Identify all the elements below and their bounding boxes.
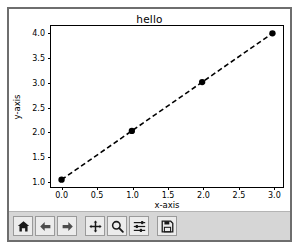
axes-frame: 0.00.51.01.52.02.53.0 1.01.52.02.53.03.5…: [50, 25, 284, 188]
data-point: [269, 30, 275, 36]
forward-button[interactable]: [57, 216, 77, 236]
toolbar-group-save: [156, 216, 178, 236]
zoom-button[interactable]: [107, 216, 127, 236]
forward-arrow-icon: [61, 220, 74, 233]
home-icon: [17, 220, 30, 233]
figure-canvas[interactable]: hello 0.00.51.01.52.02.53.0 1.01.52.02.5…: [9, 9, 290, 211]
x-tick-mark: [239, 187, 240, 190]
zoom-magnifier-icon: [111, 220, 124, 233]
y-tick-mark: [48, 108, 51, 109]
toolbar-group-navigation: [12, 216, 78, 236]
y-tick-label: 4.0: [32, 29, 45, 38]
back-button[interactable]: [35, 216, 55, 236]
figure-window: hello 0.00.51.01.52.02.53.0 1.01.52.02.5…: [7, 7, 292, 242]
subplot-sliders-icon: [133, 220, 146, 233]
y-tick-label: 1.5: [32, 152, 45, 161]
data-point: [199, 79, 205, 85]
configure-subplots-button[interactable]: [129, 216, 149, 236]
x-tick-label: 0.5: [91, 191, 104, 200]
y-tick-mark: [48, 58, 51, 59]
y-tick-mark: [48, 83, 51, 84]
y-tick-label: 3.0: [32, 78, 45, 87]
plot-svg: [51, 26, 283, 187]
x-tick-mark: [168, 187, 169, 190]
y-tick-mark: [48, 182, 51, 183]
save-floppy-icon: [161, 220, 174, 233]
y-tick-label: 2.5: [32, 103, 45, 112]
x-axis-label: x-axis: [50, 200, 284, 210]
y-axis-label: y-axis: [12, 95, 22, 120]
x-tick-label: 1.0: [126, 191, 139, 200]
x-tick-label: 2.5: [233, 191, 246, 200]
data-line-series-0: [62, 33, 273, 179]
data-point: [129, 128, 135, 134]
pan-move-icon: [89, 220, 102, 233]
navigation-toolbar: [9, 211, 290, 240]
x-tick-label: 1.5: [162, 191, 175, 200]
y-tick-label: 1.0: [32, 177, 45, 186]
plot-title: hello: [9, 13, 290, 25]
x-tick-label: 0.0: [55, 191, 68, 200]
x-tick-mark: [97, 187, 98, 190]
save-button[interactable]: [157, 216, 177, 236]
y-tick-mark: [48, 132, 51, 133]
x-tick-mark: [274, 187, 275, 190]
home-button[interactable]: [13, 216, 33, 236]
x-tick-mark: [133, 187, 134, 190]
y-tick-label: 2.0: [32, 128, 45, 137]
back-arrow-icon: [39, 220, 52, 233]
pan-button[interactable]: [85, 216, 105, 236]
y-tick-mark: [48, 33, 51, 34]
data-point: [58, 177, 64, 183]
y-tick-label: 3.5: [32, 54, 45, 63]
x-tick-mark: [203, 187, 204, 190]
toolbar-group-tools: [84, 216, 150, 236]
y-tick-mark: [48, 157, 51, 158]
x-tick-mark: [62, 187, 63, 190]
x-tick-label: 2.0: [197, 191, 210, 200]
x-tick-label: 3.0: [268, 191, 281, 200]
plot-surface: [51, 26, 283, 187]
